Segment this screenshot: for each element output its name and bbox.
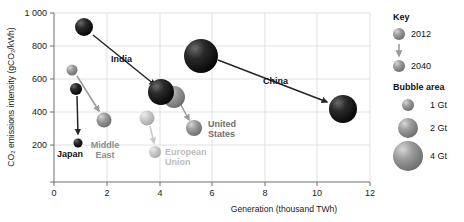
label-european-union-line1: European [165, 147, 207, 157]
label-india: India [111, 54, 133, 64]
legend-bubble-2040 [393, 60, 405, 72]
x-tick-4: 4 [157, 188, 162, 198]
bubble-united-states-2040[interactable] [186, 120, 202, 136]
label-middle-east-line1: Middle [91, 140, 120, 150]
x-tick-6: 6 [209, 188, 214, 198]
y-axis-tick-labels: 1 000 800 600 400 200 [24, 8, 47, 150]
y-tick-800: 800 [32, 41, 47, 51]
bubble-chart: 1 000 800 600 400 200 0 2 4 6 8 10 12 CO… [0, 0, 464, 222]
bubble-india-2040[interactable] [148, 79, 174, 105]
legend-label-1gt: 1 Gt [430, 100, 448, 110]
x-tick-2: 2 [104, 188, 109, 198]
bubble-middle-east-2012[interactable] [67, 65, 78, 76]
arrow-japan [77, 96, 78, 134]
legend-area-title: Bubble area [393, 82, 446, 92]
bubble-japan-2012[interactable] [70, 83, 82, 95]
x-tick-10: 10 [312, 188, 322, 198]
arrow-middle-east [77, 76, 99, 111]
bubble-india-2012[interactable] [75, 18, 93, 36]
y-tick-400: 400 [32, 107, 47, 117]
bubble-european-union-2040[interactable] [149, 146, 161, 158]
label-japan: Japan [57, 149, 83, 159]
data-labels: India China Japan Middle East United Sta… [57, 54, 289, 167]
legend-bubble-2gt [398, 118, 418, 138]
bubble-japan-2040[interactable] [74, 139, 83, 148]
legend-key-title: Key [393, 12, 410, 22]
y-tick-200: 200 [32, 140, 47, 150]
label-middle-east-line2: East [95, 150, 114, 160]
legend-label-2040: 2040 [411, 61, 431, 71]
chart-container: 1 000 800 600 400 200 0 2 4 6 8 10 12 CO… [0, 0, 464, 222]
legend-bubble-2012 [393, 28, 405, 40]
x-tick-12: 12 [365, 188, 375, 198]
legend-label-2gt: 2 Gt [430, 123, 448, 133]
bubble-european-union-2012[interactable] [140, 111, 155, 126]
label-china: China [263, 76, 289, 86]
label-united-states-line2: States [208, 129, 235, 139]
legend-label-4gt: 4 Gt [430, 151, 448, 161]
legend-bubble-4gt [393, 141, 423, 171]
x-tick-8: 8 [262, 188, 267, 198]
arrow-united-states [181, 105, 189, 120]
label-united-states-line1: United [208, 119, 236, 129]
legend-label-2012: 2012 [411, 29, 431, 39]
x-axis-title: Generation (thousand TWh) [231, 204, 338, 214]
x-axis-tick-labels: 0 2 4 6 8 10 12 [51, 188, 375, 198]
legend: Key 2012 2040 Bubble area 1 Gt 2 Gt 4 Gt [393, 12, 448, 171]
label-european-union-line2: Union [165, 157, 191, 167]
y-tick-600: 600 [32, 74, 47, 84]
bubble-china-2040[interactable] [329, 95, 357, 123]
arrow-european-union [150, 126, 154, 143]
y-axis-title: CO₂ emissions intensity (gCO₂/kWh) [6, 27, 16, 167]
bubble-middle-east-2040[interactable] [97, 113, 112, 128]
legend-bubble-1gt [402, 99, 414, 111]
bubble-china-2012[interactable] [184, 39, 218, 73]
x-tick-0: 0 [51, 188, 56, 198]
y-tick-1000: 1 000 [24, 8, 47, 18]
